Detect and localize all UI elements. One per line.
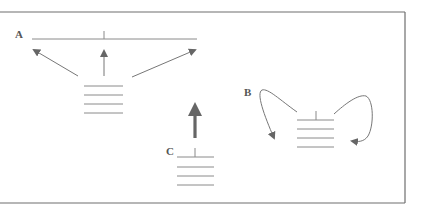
figure-frame bbox=[0, 12, 405, 203]
curved-arrow-left-icon bbox=[260, 90, 297, 138]
panel-b: B bbox=[244, 86, 372, 147]
panel-c: C bbox=[166, 106, 214, 185]
label-b: B bbox=[244, 86, 252, 98]
curved-arrow-right-icon bbox=[334, 96, 372, 142]
panel-a: A bbox=[15, 28, 197, 113]
arrow-right-icon bbox=[132, 50, 195, 77]
line-stack bbox=[177, 157, 214, 185]
line-stack bbox=[84, 86, 123, 113]
label-c: C bbox=[166, 145, 174, 157]
label-a: A bbox=[15, 28, 23, 40]
line-stack bbox=[297, 120, 334, 147]
arrow-left-icon bbox=[34, 50, 78, 76]
diagram-figure: A C B bbox=[0, 0, 422, 220]
